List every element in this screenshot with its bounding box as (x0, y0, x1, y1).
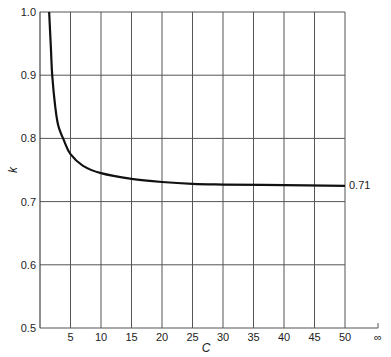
k-curve (49, 12, 345, 186)
curve (49, 12, 345, 186)
y-axis-label: k (6, 166, 20, 173)
x-tick-label: 10 (95, 331, 107, 343)
asymptote-annotation: 0.71 (349, 179, 370, 191)
y-tick-label: 1.0 (21, 6, 36, 18)
x-axis-label: C (202, 341, 211, 355)
x-tick-labels: 5101520253035404550∞ (67, 331, 381, 343)
x-tick-label: 45 (308, 331, 320, 343)
x-tick-label: 50 (339, 331, 351, 343)
x-tick-label: 15 (125, 331, 137, 343)
x-tick-label: 30 (217, 331, 229, 343)
x-tick-label: ∞ (374, 331, 382, 343)
y-tick-label: 0.7 (21, 196, 36, 208)
x-tick-label: 35 (247, 331, 259, 343)
chart: 5101520253035404550∞ 0.50.60.70.80.91.0 … (0, 0, 391, 357)
x-tick-label: 40 (278, 331, 290, 343)
y-tick-label: 0.8 (21, 132, 36, 144)
y-tick-labels: 0.50.60.70.80.91.0 (21, 6, 36, 334)
x-tick-label: 20 (156, 331, 168, 343)
y-tick-label: 0.6 (21, 259, 36, 271)
x-tick-label: 25 (186, 331, 198, 343)
x-tick-label: 5 (67, 331, 73, 343)
y-tick-label: 0.9 (21, 69, 36, 81)
y-tick-label: 0.5 (21, 322, 36, 334)
